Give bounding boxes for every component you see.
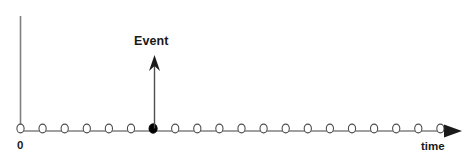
time-point-marker bbox=[238, 124, 245, 133]
time-point-marker bbox=[348, 124, 355, 133]
timeline-canvas bbox=[0, 0, 471, 163]
time-point-marker bbox=[17, 124, 24, 133]
time-axis-label: time bbox=[421, 141, 445, 153]
time-point-marker bbox=[415, 124, 422, 133]
time-point-marker bbox=[172, 124, 179, 133]
time-point-marker bbox=[105, 124, 112, 133]
origin-label: 0 bbox=[17, 140, 23, 152]
time-point-marker bbox=[39, 124, 46, 133]
time-point-marker bbox=[83, 124, 90, 133]
event-label: Event bbox=[134, 35, 169, 48]
time-point-marker bbox=[127, 124, 134, 133]
time-point-marker bbox=[260, 124, 267, 133]
timeline-figure: Event 0 time bbox=[0, 0, 471, 163]
time-point-marker bbox=[61, 124, 68, 133]
time-axis-arrowhead-icon bbox=[444, 125, 462, 138]
time-point-marker bbox=[304, 124, 311, 133]
time-point-marker bbox=[326, 124, 333, 133]
event-point-marker bbox=[149, 124, 157, 133]
time-point-marker bbox=[216, 124, 223, 133]
time-point-marker bbox=[393, 124, 400, 133]
time-point-marker bbox=[194, 124, 201, 133]
time-point-marker bbox=[371, 124, 378, 133]
time-point-marker bbox=[437, 124, 444, 133]
time-point-marker bbox=[282, 124, 289, 133]
